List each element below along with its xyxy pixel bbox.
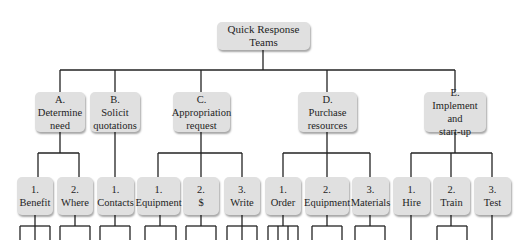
node-d3-materials: 3. Materials [352, 177, 389, 215]
node-number: 2. [197, 183, 205, 196]
node-label: Write [230, 196, 253, 209]
node-label: $ [198, 196, 203, 209]
node-label: Purchase resources [308, 106, 348, 132]
node-d1-order: 1. Order [265, 177, 301, 215]
node-number: D. [322, 93, 332, 106]
node-b1-contacts: 1. Contacts [97, 177, 134, 215]
node-number: 1. [31, 183, 39, 196]
node-number: E. [450, 86, 459, 99]
node-number: 3. [238, 183, 246, 196]
node-number: C. [197, 93, 207, 106]
node-number: 1. [408, 183, 416, 196]
node-c-appropriation-request: C. Appropriation request [173, 92, 230, 132]
node-number: 2. [448, 183, 456, 196]
node-label: Test [484, 196, 501, 209]
node-number: A. [55, 93, 65, 106]
node-d-purchase-resources: D. Purchase resources [298, 92, 357, 132]
node-b-solicit-quotations: B. Solicit quotations [90, 92, 140, 132]
node-e1-hire: 1. Hire [393, 177, 430, 215]
node-label: Equipment [135, 196, 181, 209]
node-label: Where [61, 196, 89, 209]
node-label: Order [271, 196, 296, 209]
node-label: Solicit quotations [93, 106, 137, 132]
node-label: Equipment [304, 196, 350, 209]
node-label: Train [440, 196, 462, 209]
node-c2-dollars: 2. $ [183, 177, 219, 215]
node-number: 2. [71, 183, 79, 196]
node-label: Quick Response Teams [217, 23, 310, 49]
node-d2-equipment: 2. Equipment [305, 177, 349, 215]
node-label: Materials [351, 196, 391, 209]
node-e3-test: 3. Test [474, 177, 511, 215]
node-number: 3. [367, 183, 375, 196]
node-number: 3. [489, 183, 497, 196]
node-number: 2. [323, 183, 331, 196]
node-quick-response-teams: Quick Response Teams [217, 22, 310, 50]
node-number: 1. [279, 183, 287, 196]
node-c3-write: 3. Write [224, 177, 260, 215]
node-number: 1. [112, 183, 120, 196]
node-label: Appropriation request [172, 106, 232, 132]
node-a2-where: 2. Where [57, 177, 93, 215]
node-a1-benefit: 1. Benefit [17, 177, 53, 215]
node-c1-equipment: 1. Equipment [137, 177, 180, 215]
node-label: Determine need [38, 106, 82, 132]
node-a-determine-need: A. Determine need [35, 92, 85, 132]
node-e-implement-startup: E. Implement and start-up [424, 92, 486, 132]
node-label: Contacts [97, 196, 134, 209]
node-label: Implement and start-up [424, 99, 486, 138]
node-e2-train: 2. Train [433, 177, 470, 215]
node-number: B. [110, 93, 120, 106]
node-label: Hire [402, 196, 421, 209]
node-label: Benefit [20, 196, 51, 209]
node-number: 1. [155, 183, 163, 196]
